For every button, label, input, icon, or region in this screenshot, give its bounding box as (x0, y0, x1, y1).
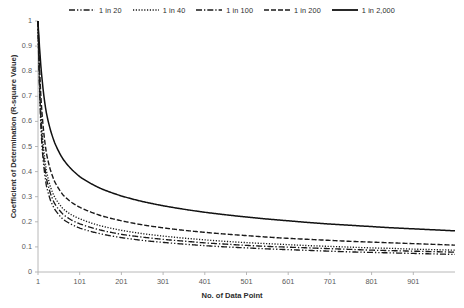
legend-swatch-dotted-icon (133, 6, 159, 14)
series-line-1-in-2-000 (38, 21, 455, 231)
legend-swatch-dashed-icon (264, 6, 290, 14)
legend-label: 1 in 20 (99, 6, 122, 15)
series-line-1-in-20 (38, 21, 455, 254)
x-tick-label: 701 (315, 278, 345, 285)
chart-container: 1 in 201 in 401 in 1001 in 2001 in 2,000… (0, 0, 464, 308)
legend-swatch-dash-dot-icon (196, 6, 222, 14)
legend-item-1-in-40[interactable]: 1 in 40 (133, 6, 186, 15)
legend-item-1-in-200[interactable]: 1 in 200 (264, 6, 321, 15)
x-tick-label: 901 (398, 278, 428, 285)
x-tick-label: 301 (148, 278, 178, 285)
x-tick-label: 801 (357, 278, 387, 285)
y-tick-label: 0 (6, 268, 32, 275)
plot-area (38, 21, 455, 272)
legend-label: 1 in 100 (226, 6, 253, 15)
y-axis-title: Coefficient of Determination (R-square V… (9, 17, 18, 257)
x-tick-label: 401 (190, 278, 220, 285)
x-tick-label: 1 (23, 278, 53, 285)
legend-label: 1 in 2,000 (362, 6, 395, 15)
x-axis-title: No. of Data Point (0, 291, 464, 300)
legend-item-1-in-20[interactable]: 1 in 20 (69, 6, 122, 15)
legend-label: 1 in 200 (294, 6, 321, 15)
legend-item-1-in-2-000[interactable]: 1 in 2,000 (332, 6, 395, 15)
x-tick-label: 601 (273, 278, 303, 285)
x-tick-label: 501 (232, 278, 262, 285)
legend-label: 1 in 40 (163, 6, 186, 15)
x-tick-label: 101 (65, 278, 95, 285)
series-line-1-in-200 (38, 21, 455, 245)
legend-item-1-in-100[interactable]: 1 in 100 (196, 6, 253, 15)
chart-legend: 1 in 201 in 401 in 1001 in 2001 in 2,000 (0, 3, 464, 17)
legend-swatch-dash-dot-dot-icon (69, 6, 95, 14)
legend-swatch-solid-icon (332, 6, 358, 14)
plot-svg (38, 21, 455, 272)
x-tick-label: 201 (106, 278, 136, 285)
